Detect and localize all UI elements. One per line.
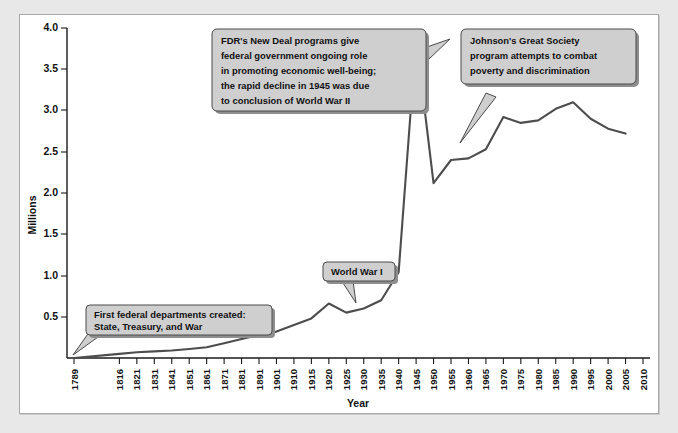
callout-line-1: World War I: [331, 266, 383, 277]
x-tick-label-1970: 1970: [498, 369, 509, 390]
x-tick-label-1980: 1980: [533, 369, 544, 390]
callout-line-5: to conclusion of World War II: [221, 95, 350, 106]
x-tick-label-1910: 1910: [288, 369, 299, 390]
callout-line-4: the rapid decline in 1945 was due: [221, 80, 370, 91]
x-tick-label-1950: 1950: [428, 369, 439, 390]
x-tick-label-1955: 1955: [446, 368, 457, 390]
x-tick-label-1891: 1891: [254, 368, 265, 390]
x-tick-label-1881: 1881: [236, 368, 247, 390]
y-tick-label-4.0: 4.0: [43, 21, 58, 33]
x-tick-label-1915: 1915: [306, 368, 317, 390]
x-tick-label-1985: 1985: [550, 368, 561, 390]
x-tick-label-2010: 2010: [638, 369, 649, 390]
callout-tail-world-war-one: [343, 281, 356, 303]
y-tick-label-2.0: 2.0: [43, 186, 58, 198]
x-tick-marks: [74, 358, 643, 364]
callout-line-2: federal government ongoing role: [221, 50, 367, 61]
x-tick-label-1930: 1930: [358, 369, 369, 390]
y-tick-label-1.0: 1.0: [43, 269, 58, 281]
annotation-johnson-great-society: Johnson's Great Society program attempts…: [460, 29, 639, 143]
x-tick-label-1960: 1960: [463, 369, 474, 390]
callout-line-3: in promoting economic well-being;: [221, 65, 376, 76]
x-tick-label-1831: 1831: [149, 368, 160, 390]
callout-line-2: State, Treasury, and War: [94, 321, 203, 332]
x-tick-label-1841: 1841: [166, 368, 177, 390]
x-tick-label-1851: 1851: [184, 368, 195, 390]
y-tick-label-3.0: 3.0: [43, 103, 58, 115]
callout-tail-johnson-great-society: [460, 93, 496, 143]
annotation-world-war-one: World War I: [323, 262, 398, 303]
x-tick-labels: 1789181618211831184118511861187118811891…: [69, 368, 649, 390]
callout-line-1: FDR's New Deal programs give: [221, 35, 359, 46]
x-tick-label-1965: 1965: [480, 368, 491, 390]
callout-tail-fdr-new-deal: [427, 39, 450, 59]
y-tick-label-0.5: 0.5: [43, 310, 58, 322]
x-tick-label-1945: 1945: [411, 368, 422, 390]
y-axis: 4.0 3.5 3.0 2.5 2.0 1.5 1.0 0.5 Millions: [26, 21, 67, 358]
x-axis-title: Year: [347, 397, 369, 409]
x-tick-label-1925: 1925: [341, 368, 352, 390]
x-tick-label-1816: 1816: [114, 369, 125, 390]
line-chart: 4.0 3.5 3.0 2.5 2.0 1.5 1.0 0.5 Millions…: [20, 15, 658, 413]
x-tick-label-1901: 1901: [271, 368, 282, 390]
callout-line-1: Johnson's Great Society: [470, 35, 580, 46]
callout-line-3: poverty and discrimination: [470, 65, 590, 76]
y-axis-title: Millions: [26, 195, 38, 234]
callout-line-2: program attempts to combat: [470, 50, 597, 61]
chart-figure-panel: 4.0 3.5 3.0 2.5 2.0 1.5 1.0 0.5 Millions…: [19, 14, 659, 414]
callout-line-1: First federal departments created:: [94, 309, 246, 320]
x-tick-label-2005: 2005: [620, 368, 631, 390]
x-axis: 1789181618211831184118511861187118811891…: [67, 358, 650, 409]
annotation-first-federal-departments: First federal departments created: State…: [73, 305, 275, 355]
x-tick-label-1821: 1821: [131, 368, 142, 390]
x-tick-label-1789: 1789: [69, 369, 80, 390]
annotation-fdr-new-deal: FDR's New Deal programs give federal gov…: [212, 29, 450, 114]
x-tick-label-1935: 1935: [376, 368, 387, 390]
x-tick-label-1940: 1940: [393, 369, 404, 390]
x-tick-label-1861: 1861: [201, 368, 212, 390]
x-tick-label-1920: 1920: [323, 369, 334, 390]
y-tick-label-3.5: 3.5: [43, 62, 58, 74]
x-tick-label-1990: 1990: [568, 369, 579, 390]
x-tick-label-2000: 2000: [603, 369, 614, 390]
x-tick-label-1871: 1871: [219, 368, 230, 390]
x-tick-label-1975: 1975: [515, 368, 526, 390]
y-tick-label-2.5: 2.5: [43, 145, 58, 157]
y-tick-label-1.5: 1.5: [43, 227, 58, 239]
x-tick-label-1995: 1995: [585, 368, 596, 390]
